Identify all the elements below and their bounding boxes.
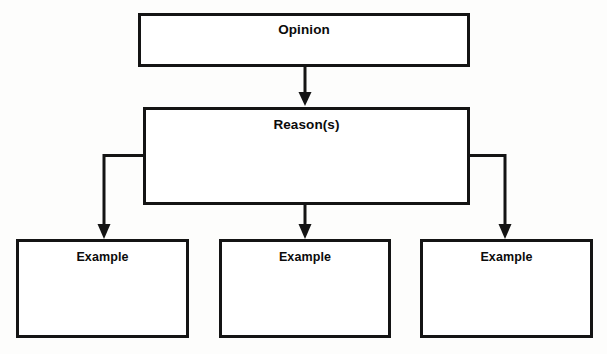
reasons-box-label: Reason(s) xyxy=(146,110,467,132)
reasons-box[interactable]: Reason(s) xyxy=(143,107,470,205)
example-box-2[interactable]: Example xyxy=(219,239,391,338)
edge-reasons-to-example-1 xyxy=(98,156,144,240)
example-box-3-label: Example xyxy=(423,242,590,264)
edge-reasons-to-example-3 xyxy=(470,156,512,240)
edge-reasons-to-example-2 xyxy=(299,205,312,239)
graphic-organizer-canvas: Opinion Reason(s) Example Example Exampl… xyxy=(0,0,607,354)
example-box-2-label: Example xyxy=(222,242,388,264)
example-box-1-label: Example xyxy=(19,242,186,264)
example-box-1[interactable]: Example xyxy=(16,239,189,338)
opinion-box[interactable]: Opinion xyxy=(138,13,470,67)
edge-opinion-to-reasons xyxy=(299,67,312,106)
example-box-3[interactable]: Example xyxy=(420,239,593,338)
opinion-box-label: Opinion xyxy=(141,16,467,37)
